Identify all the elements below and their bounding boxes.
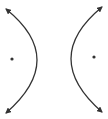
right-branch-curve xyxy=(71,7,102,112)
left-branch-curve xyxy=(6,9,37,113)
hyperbola-diagram xyxy=(0,0,108,119)
left-focus-point xyxy=(10,57,13,60)
right-focus-point xyxy=(92,55,95,58)
